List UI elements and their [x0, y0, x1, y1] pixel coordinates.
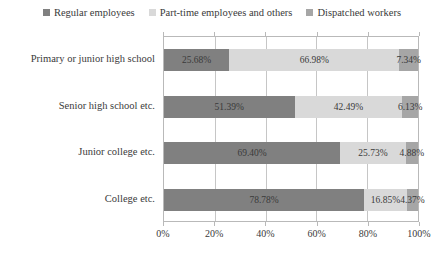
- bar-value-label: 78.78%: [249, 195, 278, 205]
- bar-segment: 66.98%: [229, 49, 399, 71]
- chart-legend: Regular employees Part-time employees an…: [0, 4, 444, 20]
- bar-row: 51.39%42.49%6.13%: [164, 96, 418, 118]
- bar-segment: 51.39%: [164, 96, 295, 118]
- legend-swatch-icon-dispatched-workers: [306, 9, 313, 16]
- x-axis-labels: 0%20%40%60%80%100%: [163, 227, 419, 241]
- x-axis-tick-0: [163, 222, 164, 226]
- bar-series-container: 25.68%66.98%7.34%51.39%42.49%6.13%69.40%…: [164, 37, 418, 221]
- bar-row: 25.68%66.98%7.34%: [164, 49, 418, 71]
- category-axis-labels: Primary or junior high schoolSenior high…: [0, 36, 160, 222]
- bar-segment: 69.40%: [164, 142, 340, 164]
- x-axis-label-20: 20%: [205, 227, 223, 240]
- legend-swatch-icon-regular-employees: [43, 9, 50, 16]
- bar-value-label: 4.88%: [400, 148, 425, 158]
- x-axis-tick-100: [419, 222, 420, 226]
- legend-item-regular-employees: Regular employees: [43, 7, 135, 18]
- category-label: Senior high school etc.: [59, 95, 155, 117]
- legend-swatch-icon-part-time-employees-and-others: [149, 9, 156, 16]
- bar-segment: 25.73%: [340, 142, 405, 164]
- x-axis-tick-80: [368, 222, 369, 226]
- bar-value-label: 16.85%: [371, 195, 400, 205]
- x-axis-tick-60: [317, 222, 318, 226]
- bar-segment: 6.13%: [402, 96, 418, 118]
- category-label: Junior college etc.: [78, 141, 155, 163]
- x-axis-label-0: 0%: [156, 227, 169, 240]
- legend-label-part-time-employees-and-others: Part-time employees and others: [160, 7, 293, 18]
- x-axis-label-80: 80%: [359, 227, 377, 240]
- category-label: Primary or junior high school: [31, 48, 155, 70]
- x-axis-label-40: 40%: [256, 227, 274, 240]
- stacked-bar-chart: Regular employees Part-time employees an…: [0, 0, 444, 257]
- plot-area: 25.68%66.98%7.34%51.39%42.49%6.13%69.40%…: [163, 36, 419, 222]
- bar-segment: 42.49%: [295, 96, 403, 118]
- bar-value-label: 7.34%: [396, 55, 421, 65]
- legend-label-dispatched-workers: Dispatched workers: [317, 7, 401, 18]
- x-axis-tick-40: [265, 222, 266, 226]
- bar-row: 69.40%25.73%4.88%: [164, 142, 418, 164]
- bar-value-label: 69.40%: [237, 148, 266, 158]
- bar-value-label: 25.73%: [358, 148, 387, 158]
- bar-value-label: 42.49%: [334, 102, 363, 112]
- bar-segment: 4.88%: [406, 142, 418, 164]
- bar-row: 78.78%16.85%4.37%: [164, 189, 418, 211]
- x-axis-label-60: 60%: [307, 227, 325, 240]
- bar-value-label: 51.39%: [215, 102, 244, 112]
- legend-label-regular-employees: Regular employees: [54, 7, 135, 18]
- bar-segment: 78.78%: [164, 189, 364, 211]
- bar-value-label: 25.68%: [182, 55, 211, 65]
- bar-value-label: 66.98%: [300, 55, 329, 65]
- bar-segment: 4.37%: [407, 189, 418, 211]
- bar-value-label: 6.13%: [398, 102, 423, 112]
- category-label: College etc.: [105, 188, 155, 210]
- x-axis-tick-top-100: [419, 32, 420, 36]
- x-axis-tick-20: [214, 222, 215, 226]
- x-axis-label-100: 100%: [407, 227, 430, 240]
- legend-item-part-time-employees-and-others: Part-time employees and others: [149, 7, 293, 18]
- bar-segment: 25.68%: [164, 49, 229, 71]
- bar-segment: 7.34%: [399, 49, 418, 71]
- bar-value-label: 4.37%: [400, 195, 425, 205]
- legend-item-dispatched-workers: Dispatched workers: [306, 7, 401, 18]
